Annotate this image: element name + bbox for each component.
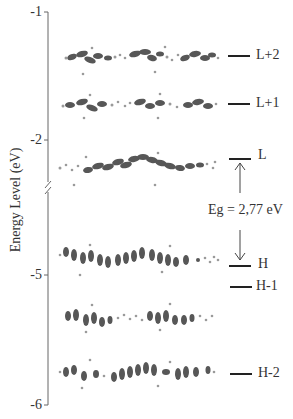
level-label-l-plus-2: L+2 <box>256 47 279 63</box>
y-tick-label: -6 <box>18 397 42 413</box>
orbital-lumo <box>59 152 217 187</box>
y-tick-label: -5 <box>18 267 42 283</box>
y-tick-label: -1 <box>18 4 42 20</box>
level-line-homo-minus-1 <box>230 286 252 288</box>
level-label-homo: H <box>258 256 268 272</box>
orbital-homo <box>59 244 220 277</box>
band-gap-label: Eg = 2,77 eV <box>208 202 283 218</box>
y-axis-label: Energy Level (eV) <box>8 140 24 260</box>
orbital-l-plus-1 <box>62 93 218 120</box>
level-line-l-plus-2 <box>228 55 250 57</box>
level-line-homo-minus-2 <box>230 373 252 375</box>
axis-break-mark <box>45 181 51 188</box>
level-label-homo-minus-2: H-2 <box>258 365 280 381</box>
level-label-homo-minus-1: H-1 <box>256 278 278 294</box>
level-line-l-plus-1 <box>228 103 250 105</box>
orbital-homo-minus-1 <box>65 303 213 334</box>
level-line-lumo <box>229 158 251 160</box>
level-label-lumo: L <box>258 147 267 163</box>
orbital-homo-minus-2 <box>59 359 216 390</box>
level-line-homo <box>229 265 251 267</box>
level-label-l-plus-1: L+1 <box>256 95 279 111</box>
y-tick-label: -2 <box>18 132 42 148</box>
orbital-l-plus-2 <box>65 46 220 76</box>
